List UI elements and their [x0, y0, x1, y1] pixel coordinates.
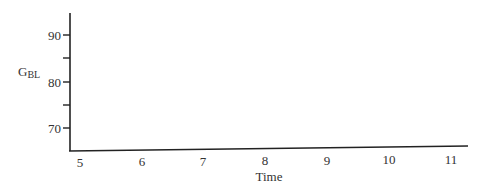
x-axis [69, 146, 468, 151]
y-ticks [63, 35, 70, 128]
x-tick-label: 7 [200, 154, 207, 169]
y-axis-title: GBL [18, 64, 40, 80]
chart: 90 80 70 GBL 5 6 7 8 9 10 11 Time [0, 0, 484, 196]
y-tick-label: 90 [48, 28, 61, 43]
x-tick-label: 9 [324, 153, 331, 168]
x-tick-label: 11 [445, 152, 458, 167]
x-tick-label: 10 [383, 152, 396, 167]
x-tick-label: 6 [139, 154, 146, 169]
x-axis-title: Time [256, 169, 283, 184]
y-tick-label: 80 [48, 75, 61, 90]
x-tick-label: 8 [262, 153, 269, 168]
y-tick-label: 70 [48, 121, 61, 136]
x-tick-label: 5 [77, 155, 84, 170]
